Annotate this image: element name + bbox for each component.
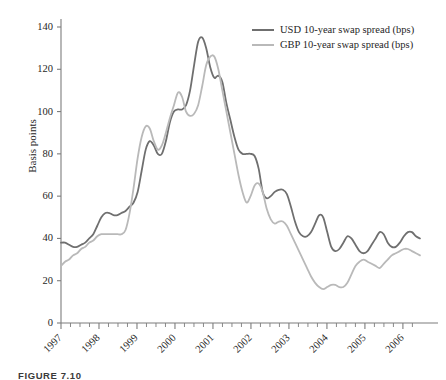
y-axis-tick-label: 40: [23, 233, 53, 243]
y-axis-tick-label: 80: [23, 149, 53, 159]
figure-caption: FIGURE 7.10: [18, 370, 82, 380]
y-axis-tick-label: 20: [23, 276, 53, 286]
y-axis-title: Basis points: [26, 86, 38, 206]
legend-label-gbp: GBP 10-year swap spread (bps): [280, 39, 413, 51]
swap-spread-line-chart: [0, 0, 446, 380]
figure-root: Basis points 020406080100120140 19971998…: [0, 0, 446, 380]
y-axis-tick-label: 100: [23, 107, 53, 117]
legend-item-gbp: GBP 10-year swap spread (bps): [252, 39, 414, 51]
legend-item-usd: USD 10-year swap spread (bps): [252, 24, 414, 36]
legend-label-usd: USD 10-year swap spread (bps): [280, 24, 414, 36]
y-axis-tick-label: 0: [23, 318, 53, 328]
chart-legend: USD 10-year swap spread (bps) GBP 10-yea…: [252, 24, 414, 51]
y-axis-tick-label: 140: [23, 22, 53, 32]
legend-line-swatch-usd: [252, 29, 274, 32]
y-axis-tick-label: 60: [23, 191, 53, 201]
chart-axes: [57, 19, 438, 329]
legend-line-swatch-gbp: [252, 44, 274, 47]
gbp-spread-line: [61, 55, 420, 289]
y-axis-tick-label: 120: [23, 64, 53, 74]
chart-series: [61, 37, 420, 289]
usd-spread-line: [61, 37, 420, 253]
